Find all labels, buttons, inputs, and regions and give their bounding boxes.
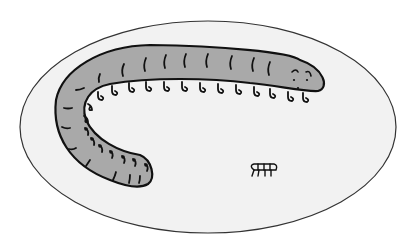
illustration-svg bbox=[0, 0, 400, 249]
illustration-canvas bbox=[0, 0, 400, 249]
